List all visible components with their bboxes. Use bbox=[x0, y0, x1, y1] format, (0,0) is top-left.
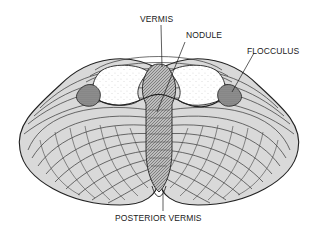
cerebellum-illustration bbox=[0, 0, 316, 235]
label-posterior-vermis: POSTERIOR VERMIS bbox=[115, 214, 202, 223]
label-nodule: NODULE bbox=[186, 31, 222, 40]
cerebellum-diagram: VERMIS NODULE FLOCCULUS POSTERIOR VERMIS bbox=[0, 0, 316, 235]
label-flocculus: FLOCCULUS bbox=[247, 47, 299, 56]
label-vermis: VERMIS bbox=[140, 15, 173, 24]
